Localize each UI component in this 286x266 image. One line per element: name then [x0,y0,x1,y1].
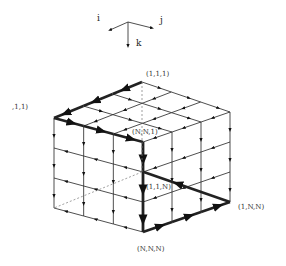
arrow-head-icon [184,128,185,129]
right-face-grid-edge [201,142,230,152]
arrow-head-icon [125,129,126,130]
arrow-head-icon [217,206,218,207]
top-grid-edge [201,102,230,112]
top-grid-edge [172,122,201,132]
left-face-grid-edge [113,194,143,202]
top-grid-edge [113,103,142,114]
thick-bottom-right-edge [172,212,201,222]
top-grid-edge [142,113,171,124]
arrow-head-icon [217,108,218,109]
top-grid-edge [142,82,171,92]
top-grid-edge [113,115,143,124]
left-face-grid-edge [113,224,143,232]
top-grid-edge [142,103,171,112]
axis-label-k: k [136,38,141,48]
left-face-grid-edge [54,208,84,216]
right-face-grid-edge [172,152,201,162]
label-back-top: (1,1,1) [146,70,169,78]
arrow-head-icon [95,121,96,122]
right-face-grid-edge [201,172,230,182]
thick-edge-top-back-left [113,82,142,94]
arrow-head-icon [188,216,189,217]
axis-label-i: i [97,13,100,23]
left-face-grid-edge [84,216,114,224]
top-grid-edge [172,102,201,113]
cube-diagram: i j k (1,1,1) ,1,1) (N,N,1) (1,1,N) (1,N… [0,0,286,266]
arrow-head-icon [155,138,156,139]
thick-bottom-right-edge [201,202,230,212]
arrow-head-icon [154,98,155,99]
right-face-grid-edge [143,192,172,202]
thick-edge-top-back-left [83,94,112,106]
arrow-head-icon [125,110,126,111]
arrow-head-icon [158,88,159,89]
arrow-head-icon [178,184,182,186]
arrow-head-icon [159,226,160,227]
arrow-head-icon [155,198,156,199]
top-grid-edge [172,113,201,122]
top-grid-edge [83,106,113,115]
top-grid-edge [201,112,230,122]
arrow-head-icon [213,148,214,149]
thick-edge-left-front [84,126,114,134]
arrow-head-icon [66,113,67,114]
arrow-head-icon [213,118,214,119]
top-grid-edge [84,115,113,126]
arrow-head-icon [124,89,125,90]
label-left-top: ,1,1) [12,103,28,111]
top-grid-edge [171,92,200,102]
arrow-head-icon [154,119,155,120]
axis-j-arrow-icon [128,22,152,28]
label-right-bottom: (1,N,N) [238,203,264,211]
thick-edge-left-front [54,118,84,126]
arrow-head-icon [187,98,188,99]
left-face-grid-edge [84,186,114,194]
top-grid-edge [142,92,171,103]
arrow-head-icon [95,101,96,102]
arrow-head-icon [155,168,156,169]
thick-edge-top-back-left [54,106,83,118]
right-face-grid-edge [143,162,172,172]
label-front-bottom: (N,N,N) [137,245,164,253]
label-front-top: (N,N,1) [132,128,158,136]
left-face-grid-edge [54,178,84,186]
arrow-head-icon [183,108,184,109]
arrow-head-icon [184,158,185,159]
axis-i-arrow-icon [110,22,128,30]
axis-label-j: j [160,15,163,25]
top-grid-edge [113,94,142,103]
left-face-grid-edge [113,164,143,172]
left-face-grid-edge [54,148,84,156]
thick-bottom-right-edge [143,222,172,232]
arrow-head-icon [213,178,214,179]
label-center: (1,1,N) [146,183,171,191]
left-face-grid-edge [84,156,114,164]
